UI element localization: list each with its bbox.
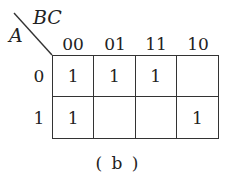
- cell-a1-bc11: [136, 97, 177, 138]
- cell-a0-bc11: 1: [136, 56, 177, 97]
- cell-a1-bc10: 1: [177, 97, 218, 138]
- column-label-10: 10: [177, 36, 219, 53]
- column-label-00: 00: [52, 36, 94, 53]
- cell-a0-bc01: 1: [94, 56, 135, 97]
- figure-caption: ( b ): [0, 153, 236, 173]
- cell-a0-bc00: 1: [53, 56, 94, 97]
- column-label-11: 11: [135, 36, 177, 53]
- row-label-0: 0: [32, 68, 46, 85]
- column-variable-label: BC: [33, 8, 62, 27]
- row-label-1: 1: [32, 110, 46, 127]
- column-label-01: 01: [94, 36, 136, 53]
- cell-a0-bc10: [177, 56, 218, 97]
- row-variable-label: A: [9, 26, 23, 45]
- cell-a1-bc00: 1: [53, 97, 94, 138]
- cell-a1-bc01: [94, 97, 135, 138]
- karnaugh-map-grid: 1 1 1 1 1: [52, 55, 219, 139]
